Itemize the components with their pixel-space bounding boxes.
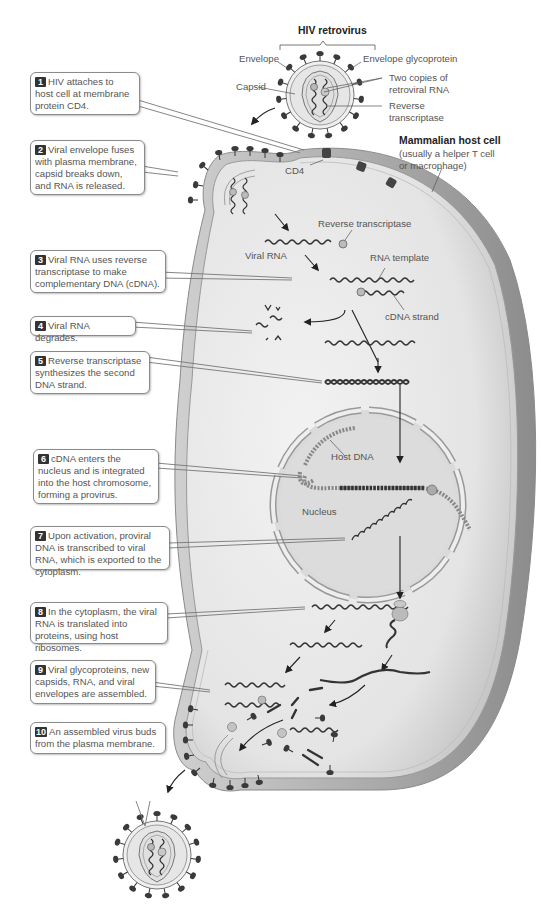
label-host-dna: Host DNA bbox=[331, 451, 374, 463]
step-number-badge: 3 bbox=[35, 255, 46, 265]
step-1-callout: 1HIV attaches to host cell at membrane p… bbox=[30, 72, 140, 115]
step-number-badge: 4 bbox=[35, 321, 46, 331]
ribosome bbox=[392, 607, 408, 621]
step-text: An assembled virus buds from the plasma … bbox=[35, 726, 156, 749]
host-cell-subtitle-line1: (usually a helper T cell bbox=[399, 148, 495, 160]
step-number-badge: 9 bbox=[35, 665, 46, 675]
label-two-copies-line1: Two copies of bbox=[389, 72, 448, 84]
diagram-title: HIV retrovirus bbox=[298, 25, 367, 37]
label-reverse-transcriptase-line2: transcriptase bbox=[389, 112, 444, 124]
label-envelope-glycoprotein: Envelope glycoprotein bbox=[363, 53, 457, 65]
step-10-callout: 10An assembled virus buds from the plasm… bbox=[30, 722, 166, 754]
step-number-badge: 1 bbox=[35, 77, 46, 87]
step-number-badge: 2 bbox=[35, 145, 46, 155]
label-viral-rna: Viral RNA bbox=[245, 250, 287, 262]
step-2-callout: 2Viral envelope fuses with plasma membra… bbox=[30, 140, 145, 195]
step-number-badge: 10 bbox=[35, 727, 47, 737]
label-cdna-strand: cDNA strand bbox=[385, 311, 439, 323]
step-4-callout: 4Viral RNA degrades. bbox=[30, 316, 136, 336]
step-text: HIV attaches to host cell at membrane pr… bbox=[35, 76, 129, 111]
label-cd4: CD4 bbox=[285, 165, 304, 177]
step-number-badge: 5 bbox=[35, 356, 46, 366]
step-5-callout: 5Reverse transcriptase synthesizes the s… bbox=[30, 351, 150, 394]
step-text: Viral RNA uses reverse transcriptase to … bbox=[35, 254, 160, 289]
step-9-callout: 9Viral glycoproteins, new capsids, RNA, … bbox=[30, 660, 156, 704]
cd4-receptor bbox=[322, 148, 331, 158]
label-capsid: Capsid bbox=[236, 81, 266, 93]
label-nucleus: Nucleus bbox=[302, 506, 337, 518]
hiv-virion-released bbox=[113, 811, 201, 899]
label-reverse-transcriptase: Reverse transcriptase bbox=[318, 218, 411, 230]
step-text: Upon activation, proviral DNA is transcr… bbox=[35, 530, 161, 577]
arrow-attach bbox=[252, 108, 275, 124]
virus-brace bbox=[280, 41, 375, 50]
step-text: Reverse transcriptase synthesizes the se… bbox=[35, 355, 141, 390]
reverse-transcriptase bbox=[339, 240, 347, 248]
hiv-virion-incoming bbox=[276, 51, 364, 139]
step-3-callout: 3Viral RNA uses reverse transcriptase to… bbox=[30, 250, 166, 293]
nucleus bbox=[273, 410, 463, 600]
step-number-badge: 7 bbox=[35, 531, 46, 541]
host-cell-subtitle-line2: or macrophage) bbox=[399, 160, 467, 172]
step-7-callout: 7Upon activation, proviral DNA is transc… bbox=[30, 526, 170, 570]
label-rna-template: RNA template bbox=[370, 252, 429, 264]
step-8-callout: 8In the cytoplasm, the viral RNA is tran… bbox=[30, 602, 168, 644]
label-reverse-transcriptase-line1: Reverse bbox=[389, 100, 425, 112]
step-text: Viral glycoproteins, new capsids, RNA, a… bbox=[35, 664, 149, 699]
label-two-copies-line2: retroviral RNA bbox=[389, 84, 449, 96]
host-cell-title: Mammalian host cell bbox=[399, 135, 501, 147]
step-text: cDNA enters the nucleus and is integrate… bbox=[38, 453, 151, 500]
label-envelope: Envelope bbox=[239, 53, 279, 65]
step-text: Viral envelope fuses with plasma membran… bbox=[35, 144, 137, 191]
step-number-badge: 8 bbox=[35, 607, 46, 617]
step-number-badge: 6 bbox=[38, 454, 49, 464]
step-6-callout: 6cDNA enters the nucleus and is integrat… bbox=[33, 449, 159, 504]
